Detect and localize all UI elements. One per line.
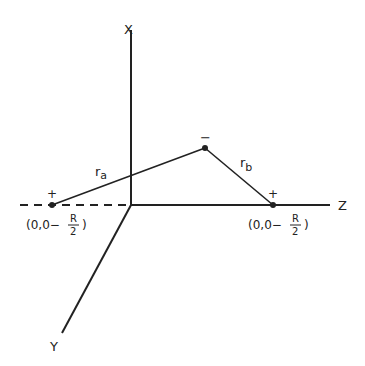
left-coordinate-label: (0,0− R 2 ) <box>26 213 87 237</box>
electron-charge-sign: − <box>200 130 211 145</box>
electron-point <box>202 145 208 151</box>
svg-text:2: 2 <box>292 226 298 237</box>
y-axis <box>62 205 131 333</box>
y-axis-label: Y <box>49 339 58 354</box>
right-nucleus-point <box>270 202 276 208</box>
svg-text:R: R <box>70 213 77 224</box>
rb-line <box>205 148 273 205</box>
x-axis-label: X <box>124 22 133 37</box>
svg-text:(0,0−: (0,0− <box>26 218 60 232</box>
left-charge-sign: + <box>47 187 57 201</box>
left-nucleus-point <box>49 202 55 208</box>
coordinate-diagram: X Z Y + + − ra rb (0,0− R 2 ) (0,0− R 2 … <box>0 0 365 366</box>
ra-line <box>52 148 205 205</box>
right-charge-sign: + <box>268 187 278 201</box>
ra-label: ra <box>95 164 107 182</box>
right-coordinate-label: (0,0− R 2 ) <box>248 213 309 237</box>
z-axis-label: Z <box>338 198 347 213</box>
svg-text:R: R <box>292 213 299 224</box>
svg-text:): ) <box>304 218 309 232</box>
svg-text:2: 2 <box>70 226 76 237</box>
svg-text:(0,0−: (0,0− <box>248 218 282 232</box>
rb-label: rb <box>240 155 252 174</box>
svg-text:): ) <box>82 218 87 232</box>
